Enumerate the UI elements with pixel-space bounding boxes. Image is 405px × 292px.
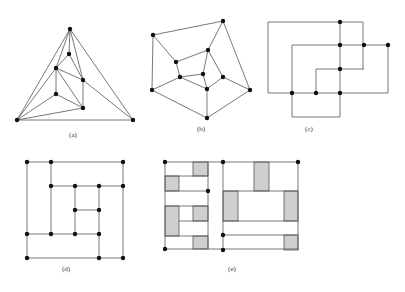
graph-edge [56, 94, 83, 108]
graph-edge [153, 21, 223, 35]
graph-node [221, 19, 225, 23]
graph-edge [223, 21, 250, 90]
shaded-rectangle [193, 236, 208, 249]
graph-node [290, 91, 294, 95]
panel-c-orthogonal-drawing: (c) [268, 20, 390, 133]
graph-node [121, 256, 125, 260]
graph-node [296, 160, 300, 164]
graph-node [81, 106, 85, 110]
graph-node [73, 184, 77, 188]
panel-label: (a) [69, 131, 77, 139]
panel-e-rectangular-dual-drawing: (e) [163, 160, 300, 273]
panel-label: (c) [305, 125, 313, 133]
graph-node [97, 232, 101, 236]
graph-node [25, 160, 29, 164]
graph-node [221, 75, 225, 79]
graph-node [49, 160, 53, 164]
shaded-rectangle [193, 206, 208, 221]
graph-node [201, 72, 205, 76]
graph-node [68, 27, 72, 31]
graph-node [178, 75, 182, 79]
graph-edge [17, 29, 70, 120]
graph-node [131, 118, 135, 122]
graph-node [338, 20, 342, 24]
graph-node [206, 189, 210, 193]
graph-node [338, 91, 342, 95]
shaded-rectangle [254, 162, 269, 191]
graph-edge [152, 90, 207, 118]
graph-edge [203, 50, 208, 74]
shaded-rectangle [223, 191, 238, 221]
graph-edge [17, 108, 83, 120]
panel-b-planar-graph: (b) [150, 19, 252, 133]
graph-edge [70, 29, 83, 80]
shaded-rectangle [284, 191, 298, 221]
graph-edge [180, 74, 203, 77]
graph-edge [17, 68, 56, 120]
panel-a-triangulated-graph: (a) [15, 27, 135, 139]
graph-node [205, 116, 209, 120]
graph-node [97, 184, 101, 188]
graph-node [97, 208, 101, 212]
graph-node [49, 232, 53, 236]
graph-node [221, 233, 225, 237]
graph-node [386, 43, 390, 47]
graph-node [67, 52, 71, 56]
panel-label: (b) [197, 125, 206, 133]
graph-node [338, 43, 342, 47]
shaded-rectangle [193, 162, 208, 176]
shaded-rectangle [165, 176, 179, 191]
graph-node [97, 256, 101, 260]
graph-node [81, 78, 85, 82]
graph-node [314, 91, 318, 95]
graph-node [338, 67, 342, 71]
graph-edge [207, 90, 250, 118]
panel-label: (d) [62, 265, 71, 273]
graph-node [25, 232, 29, 236]
graph-edge [56, 29, 70, 68]
graph-node [15, 118, 19, 122]
graph-edge [176, 50, 208, 62]
graph-edge [208, 21, 223, 50]
graph-node [206, 48, 210, 52]
graph-node [163, 160, 167, 164]
graph-node [205, 87, 209, 91]
graph-edge [152, 35, 153, 90]
graph-edge [56, 54, 69, 68]
graph-node [221, 160, 225, 164]
graph-node [73, 232, 77, 236]
graph-edge [180, 77, 207, 89]
graph-drawing-figure: (a) (b) (c) (d) (e) [0, 0, 405, 292]
graph-node [54, 92, 58, 96]
graph-node [150, 88, 154, 92]
graph-node [54, 66, 58, 70]
graph-node [73, 208, 77, 212]
graph-node [121, 184, 125, 188]
graph-edge [176, 62, 180, 77]
panel-d-orthogonal-grid-drawing: (d) [25, 160, 125, 273]
graph-node [174, 60, 178, 64]
panel-label: (e) [228, 265, 236, 273]
graph-edge [207, 77, 223, 89]
graph-node [151, 33, 155, 37]
graph-node [121, 160, 125, 164]
graph-edge [203, 74, 207, 89]
shaded-rectangle [165, 206, 179, 236]
graph-node [248, 88, 252, 92]
graph-edge [69, 54, 83, 80]
graph-node [25, 256, 29, 260]
graph-node [362, 43, 366, 47]
graph-node [49, 184, 53, 188]
graph-edge [69, 29, 70, 54]
graph-edge [208, 50, 223, 77]
graph-edge [153, 35, 176, 62]
graph-node [163, 247, 167, 251]
graph-edge [83, 80, 133, 120]
graph-node [221, 248, 225, 252]
shaded-rectangle [284, 235, 298, 250]
graph-edge [152, 77, 180, 90]
